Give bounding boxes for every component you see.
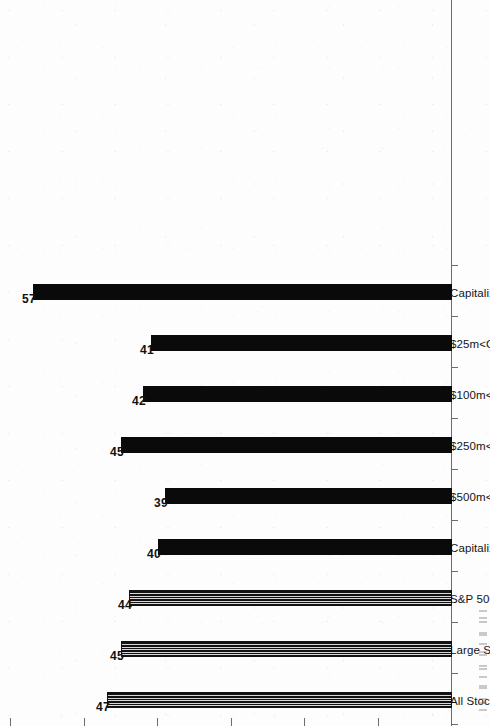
category-axis-tick <box>451 368 458 369</box>
bar <box>107 692 452 708</box>
category-axis-tick <box>451 674 458 675</box>
bar <box>158 539 452 555</box>
category-axis-tick <box>451 521 458 522</box>
category-axis-label: $25m<Capitalization<$100m <box>450 338 490 350</box>
bar-value-label: 45 <box>110 445 124 459</box>
bar-value-label: 47 <box>96 700 110 714</box>
category-axis-tick <box>451 470 458 471</box>
value-axis-tick <box>157 718 158 726</box>
bar-value-label: 41 <box>140 343 154 357</box>
value-axis-tick <box>378 718 379 726</box>
plot-area: 0102030405060 All StocksLarge StocksS&P … <box>0 0 490 726</box>
category-axis-label: Capitalization>$1b <box>450 542 490 554</box>
value-axis-tick <box>231 718 232 726</box>
category-axis-tick <box>451 266 458 267</box>
bar <box>121 641 452 657</box>
value-axis-tick <box>10 718 11 726</box>
value-axis-tick <box>304 718 305 726</box>
category-axis-label: $500m<Capitalization<$1b <box>450 491 490 503</box>
category-axis-tick <box>451 725 458 726</box>
bar-value-label: 40 <box>147 547 161 561</box>
bar-value-label: 44 <box>118 598 132 612</box>
bar <box>121 437 452 453</box>
page-edge-artifact <box>479 604 487 716</box>
category-axis-tick <box>451 572 458 573</box>
category-axis-label: $250m<Capitalization<$500m <box>450 440 490 452</box>
value-axis-tick <box>84 718 85 726</box>
bar-value-label: 39 <box>154 496 168 510</box>
bar-value-label: 45 <box>110 649 124 663</box>
bar <box>143 386 452 402</box>
category-axis-tick <box>451 623 458 624</box>
category-axis-label: $100m<Capitalization<$250m <box>450 389 490 401</box>
value-axis-baseline <box>451 0 452 726</box>
bar <box>151 335 452 351</box>
bar-value-label: 42 <box>132 394 146 408</box>
bar <box>165 488 452 504</box>
category-axis-tick <box>451 317 458 318</box>
figure-region: 0102030405060 All StocksLarge StocksS&P … <box>0 0 490 726</box>
bar-value-label: 57 <box>22 292 36 306</box>
bar-chart: 0102030405060 All StocksLarge StocksS&P … <box>0 0 490 726</box>
category-axis-label: Capitalization<$25m <box>450 287 490 299</box>
bar <box>33 284 452 300</box>
bar <box>129 590 452 606</box>
scanned-page: 0102030405060 All StocksLarge StocksS&P … <box>0 0 490 726</box>
category-axis-tick <box>451 419 458 420</box>
